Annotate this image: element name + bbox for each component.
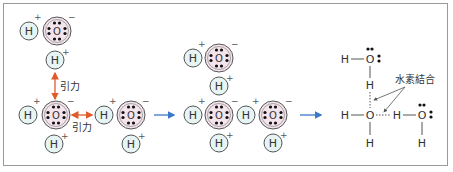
panel-structural-formula: H O H H O H H O H bbox=[341, 47, 435, 150]
partial-positive: + bbox=[226, 130, 234, 140]
hydrogen-symbol: H bbox=[366, 137, 374, 150]
partial-negative: − bbox=[231, 96, 239, 106]
oxygen-atom bbox=[43, 17, 71, 45]
hydrogen-bond-pointer bbox=[374, 87, 405, 100]
partial-negative: − bbox=[142, 96, 150, 106]
oxygen-atom bbox=[205, 101, 233, 129]
oxygen-atom bbox=[117, 101, 145, 129]
hydrogen-bond-label: 水素結合 bbox=[395, 73, 435, 85]
structural-molecule-bottom-left: H O H bbox=[341, 109, 375, 150]
hydrogen-symbol: H bbox=[341, 53, 349, 66]
oxygen-symbol: O bbox=[366, 53, 375, 66]
partial-positive: + bbox=[226, 73, 234, 83]
hydrogen-symbol: H bbox=[341, 109, 349, 122]
water-hydrogen-bond-diagram: H O + − + 引力 bbox=[0, 0, 453, 172]
oxygen-symbol: O bbox=[366, 109, 375, 122]
structural-molecule-bottom-right: H O H bbox=[393, 103, 433, 150]
partial-negative: − bbox=[231, 39, 239, 49]
panel-aggregation: + − + + − + + − + bbox=[184, 39, 293, 152]
oxygen-atom bbox=[259, 101, 287, 129]
oxygen-symbol: O bbox=[418, 109, 427, 122]
structural-molecule-top: H O H bbox=[341, 47, 381, 92]
hydrogen-atom bbox=[184, 106, 202, 124]
partial-positive: + bbox=[198, 39, 206, 49]
hydrogen-symbol: H bbox=[418, 137, 426, 150]
partial-positive: + bbox=[62, 47, 70, 57]
hydrogen-atom bbox=[19, 106, 37, 124]
attraction-label: 引力 bbox=[72, 121, 92, 133]
water-molecule-bottom-left: + − + bbox=[19, 96, 75, 153]
partial-positive: + bbox=[198, 96, 206, 106]
partial-negative: − bbox=[67, 96, 75, 106]
hydrogen-atom bbox=[95, 106, 113, 124]
partial-positive: + bbox=[138, 131, 146, 141]
partial-positive: + bbox=[109, 96, 117, 106]
partial-positive: + bbox=[33, 96, 41, 106]
partial-positive: + bbox=[34, 12, 42, 22]
oxygen-atom bbox=[205, 44, 233, 72]
partial-positive: + bbox=[280, 130, 288, 140]
water-molecule-bottom-right: + − + bbox=[237, 96, 293, 152]
water-molecule-bottom-right: + − + bbox=[95, 96, 150, 153]
hydrogen-atom bbox=[20, 22, 38, 40]
partial-negative: − bbox=[68, 12, 76, 22]
hydrogen-atom bbox=[184, 49, 202, 67]
attraction-label: 引力 bbox=[60, 80, 80, 92]
water-molecule-top: + − + bbox=[20, 12, 76, 69]
hydrogen-atom bbox=[237, 106, 255, 124]
partial-negative: − bbox=[285, 96, 293, 106]
hydrogen-symbol: H bbox=[393, 109, 401, 122]
hydrogen-symbol: H bbox=[366, 79, 374, 92]
partial-positive: + bbox=[61, 131, 69, 141]
water-molecule-bottom-left: + − + bbox=[184, 96, 239, 152]
oxygen-atom bbox=[42, 101, 70, 129]
water-molecule-top: + − + bbox=[184, 39, 239, 95]
panel-attraction: + − + 引力 + − + 引力 + − + bbox=[19, 12, 150, 153]
partial-positive: + bbox=[252, 96, 260, 106]
